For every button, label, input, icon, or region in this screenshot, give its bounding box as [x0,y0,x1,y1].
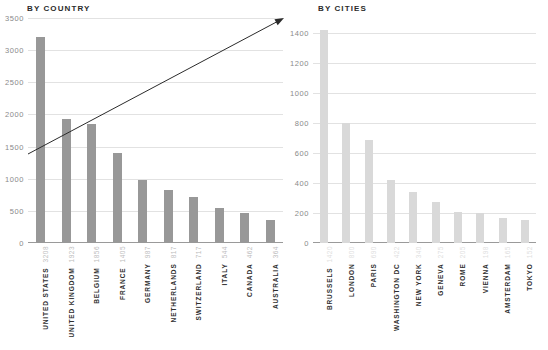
category-value: 717 [195,246,202,258]
x-axis-category-label: AUSTRALIA364 [273,246,280,309]
category-value: 165 [504,246,511,258]
bar [266,220,275,243]
y-axis-tick-label: 3500 [5,14,24,23]
category-name: FRANCE [119,267,126,299]
category-name: ITALY [221,263,228,285]
x-axis-category-label: UNITED KINGDOM1923 [69,246,76,337]
x-axis-category-label: WASHINGTON DC422 [394,246,401,331]
category-value: 544 [221,246,228,258]
bar-column [387,18,395,243]
bar [409,192,417,243]
category-value: 800 [348,246,355,258]
bar-column [113,18,122,243]
category-value: 462 [246,246,253,258]
y-axis-tick-label: 200 [295,209,309,218]
bar-column [521,18,529,243]
bar-column [454,18,462,243]
bar [62,119,71,243]
category-name: BRUSSELS [326,267,333,310]
bar [432,202,440,243]
bar-column [432,18,440,243]
y-axis-tick-label: 0 [304,239,309,248]
x-axis-labels-by-country: UNITED STATES3208UNITED KINGDOM1923BELGI… [28,246,283,350]
bar-column [342,18,350,243]
category-name: GENEVA [437,263,444,295]
y-axis-tick-label: 1400 [290,29,309,38]
category-value: 987 [144,246,151,258]
bar-column [189,18,198,243]
bar-column [87,18,96,243]
bar [454,212,462,243]
charts-container: BY COUNTRY 0500100015002000250030003500 … [0,0,548,350]
x-axis-category-label: BELGIUM1856 [94,246,101,304]
bar-column [409,18,417,243]
bar-column [499,18,507,243]
x-axis-category-label: ITALY544 [222,246,229,286]
category-name: GERMANY [144,263,151,303]
bar-column [240,18,249,243]
y-axis-tick-label: 2000 [5,110,24,119]
x-axis-category-label: UNITED STATES3208 [43,246,50,330]
y-axis-tick-label: 600 [295,149,309,158]
gridline [28,243,283,244]
x-axis-category-label: VIENNA198 [483,246,490,293]
category-value: 364 [272,246,279,258]
category-value: 152 [526,246,533,258]
category-value: 422 [393,246,400,258]
bar [215,208,224,243]
bar-column [164,18,173,243]
category-value: 690 [370,246,377,258]
bar [36,37,45,243]
category-name: NETHERLANDS [170,263,177,322]
bar-column [215,18,224,243]
category-value: 205 [459,246,466,258]
bar [164,190,173,243]
chart-title-by-cities: BY CITIES [318,4,367,13]
x-axis-category-label: ROME205 [460,246,467,286]
category-value: 198 [482,246,489,258]
category-name: PARIS [370,263,377,287]
chart-panel-by-country: BY COUNTRY 0500100015002000250030003500 … [0,0,300,350]
bars-by-country [28,18,283,243]
bar [320,30,328,243]
category-name: NEW YORK [415,263,422,306]
x-axis-labels-by-cities: BRUSSELS1420LONDON800PARIS690WASHINGTON … [313,246,536,350]
bar-column [62,18,71,243]
bar [189,197,198,243]
bar [87,124,96,243]
plot-area-by-cities: 0200400600800100012001400 [313,18,536,243]
x-axis-category-label: LONDON800 [349,246,356,297]
bar-column [266,18,275,243]
gridline [313,243,536,244]
bar [113,153,122,243]
x-axis-category-label: AMSTERDAM165 [505,246,512,314]
x-axis-category-label: NETHERLANDS817 [171,246,178,322]
y-axis-tick-label: 800 [295,119,309,128]
category-name: AMSTERDAM [504,263,511,313]
category-name: AUSTRALIA [272,263,279,309]
chart-panel-by-cities: BY CITIES 0200400600800100012001400 BRUS… [300,0,548,350]
category-value: 1923 [68,246,75,262]
x-axis-category-label: GENEVA275 [438,246,445,296]
y-axis-tick-label: 400 [295,179,309,188]
y-axis-tick-label: 1000 [5,174,24,183]
category-value: 817 [170,246,177,258]
x-axis-category-label: FRANCE1405 [120,246,127,300]
category-name: TOKYO [526,263,533,291]
bars-by-cities [313,18,536,243]
category-name: VIENNA [482,263,489,293]
category-name: LONDON [348,263,355,297]
category-value: 1856 [93,246,100,262]
category-name: SWITZERLAND [195,263,202,320]
category-name: CANADA [246,263,253,297]
y-axis-tick-label: 3000 [5,46,24,55]
x-axis-category-label: NEW YORK340 [416,246,423,306]
bar [387,180,395,243]
bar-column [365,18,373,243]
x-axis-category-label: BRUSSELS1420 [327,246,334,310]
category-name: UNITED STATES [42,267,49,329]
bar-column [138,18,147,243]
y-axis-tick-label: 1500 [5,142,24,151]
bar [476,213,484,243]
x-axis-category-label: SWITZERLAND717 [196,246,203,321]
